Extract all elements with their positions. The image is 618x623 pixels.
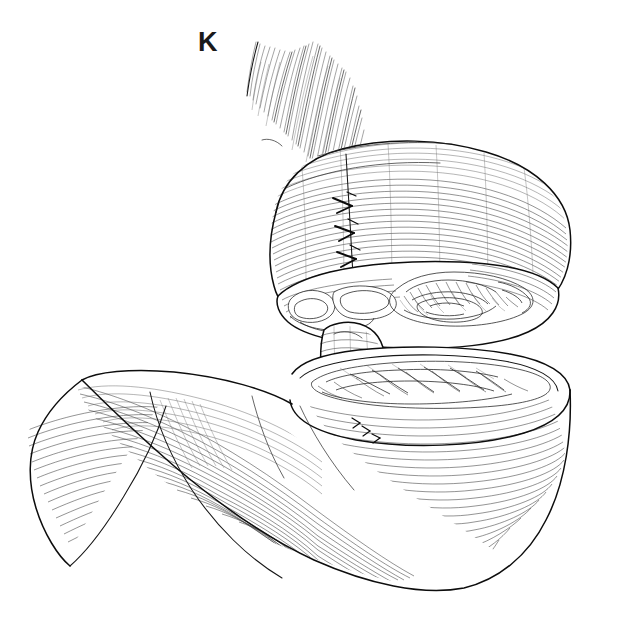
esophagus-fold	[262, 139, 282, 146]
figure-root: K	[0, 0, 618, 623]
distal-tail-left-contour	[30, 380, 82, 566]
lower-gastric-remnant	[28, 347, 572, 592]
upper-cut-edge	[276, 261, 558, 348]
upper-gastric-pouch	[269, 140, 571, 349]
lower-top-contour	[82, 370, 292, 404]
mucosal-curl-2	[333, 286, 396, 320]
stomach-illustration	[0, 0, 618, 623]
esophagus-left-border	[247, 42, 258, 96]
